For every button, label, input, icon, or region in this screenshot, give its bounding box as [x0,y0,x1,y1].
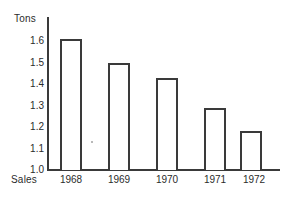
x-axis-tick-label-1971: 1971 [204,174,226,185]
bar-1971 [204,108,226,170]
x-axis-tick-label-1972: 1972 [243,174,265,185]
bars-group [0,0,288,201]
x-axis-tick-label-1969: 1969 [108,174,130,185]
bar-1968 [60,39,82,170]
bar-1969 [108,63,130,171]
bar-1970 [156,78,178,171]
series-label-sales: Sales [11,174,37,185]
scan-artifact-speck [91,141,93,143]
x-axis-tick-label-1970: 1970 [156,174,178,185]
x-axis-tick-label-1968: 1968 [60,174,82,185]
bar-chart: Tons 1.0 1.1 1.2 1.3 1.4 1.5 1.6 Sales 1… [0,0,288,201]
bar-1972 [240,131,262,170]
